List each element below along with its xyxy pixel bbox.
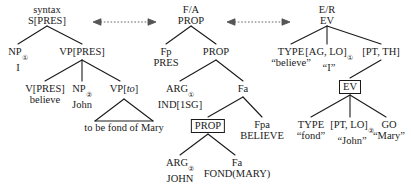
prop-boxed-label: PROP [191,119,225,133]
node-type2: TYPE “fond” [297,119,326,141]
node-fp: Fp PRES [153,46,178,68]
er-tier-label: E/R EV [319,4,335,26]
type2-word: “fond” [297,130,326,141]
edge-triangle-left [95,99,124,121]
edge-propboxed-to-fa2 [208,134,235,155]
syntax-root-label: S[PRES] [28,15,66,26]
np2-index: ② [86,91,92,99]
node-ev-boxed: EV [339,80,361,94]
node-vp-to: VP[to] [110,83,139,94]
edge-prop-to-fp [166,26,191,44]
fa-label: Fa [238,83,249,94]
node-fpa: Fpa BELIEVE [240,119,284,141]
node-ptth: [PT, TH] [362,46,400,57]
np2-word: John [72,99,92,110]
diagram-canvas: syntax S[PRES] NP① I VP[PRES] V[PRES] be… [0,0,411,195]
node-fa: Fa [238,83,249,94]
vp-to-label: VP[to] [110,83,139,94]
fa-tier-text: F/A [178,4,204,15]
node-go: GO “Mary” [373,119,405,141]
edge-evboxed-to-go [350,95,386,117]
aglo-label: [AG, LO]① [305,46,352,62]
type2-label: TYPE [297,119,326,130]
node-triangle-phrase: to be fond of Mary [84,122,163,133]
node-vp-pres: VP[PRES] [59,46,105,57]
edge-vppres-to-vpres [45,60,82,81]
fpa-label: Fpa [240,119,284,130]
np1-category: NP① [8,46,27,62]
vp-pres-label: VP[PRES] [59,46,105,57]
edge-ev-to-type1 [291,26,327,44]
edge-propboxed-to-arg2 [180,134,208,155]
edge-s-to-np1 [18,26,47,44]
fp-label: Fp [153,46,178,57]
edge-evboxed-to-type2 [311,95,350,117]
node-aglo: [AG, LO]① “I” [305,46,352,73]
arg1-index: ① [188,91,194,99]
er-tier-text: E/R [319,4,335,15]
go-word: “Mary” [373,130,405,141]
arg2-label: ARG② [166,157,194,173]
fpa-word: BELIEVE [240,130,284,141]
arg1-label: ARG① [158,83,202,99]
arg1-word: IND[1SG] [158,99,202,110]
node-arg1: ARG① IND[1SG] [158,83,202,110]
edge-fa-to-fpa [243,97,262,117]
arrow-syntax-fa [93,19,156,25]
edge-fa-to-propboxed [208,97,243,117]
aglo-word: “I” [305,62,352,73]
node-np1: NP① I [8,46,27,73]
edge-vppres-to-vpto [82,60,120,81]
node-arg2: ARG② JOHN [166,157,194,184]
edge-ev-to-ptth [327,26,381,44]
arg2-word: JOHN [166,173,194,184]
edge-s-to-vppres [47,26,82,44]
edge-triangle-right [124,99,153,121]
node-v-pres: V[PRES] believe [25,83,65,105]
arrow-fa-er [227,19,290,25]
fa2-label: Fa [204,157,271,168]
v-pres-label: V[PRES] [25,83,65,94]
edge-ptth-to-evboxed [350,60,381,78]
node-fa2: Fa FOND(MARY) [204,157,271,179]
syntax-tier-label: syntax S[PRES] [28,4,66,26]
node-prop2: PROP [203,46,229,57]
np1-index: ① [22,54,28,62]
edge-prop-to-prop2 [191,26,216,44]
fa2-word: FOND(MARY) [204,168,271,179]
prop2-label: PROP [203,46,229,57]
ptth-label: [PT, TH] [362,46,400,57]
node-prop-boxed: PROP [191,119,225,133]
fa-tier-label: F/A PROP [178,4,204,26]
triangle-phrase-text: to be fond of Mary [84,122,163,133]
node-np2: NP② John [72,83,92,110]
aglo-index: ① [347,54,353,62]
ptlo-label: [PT, LO]② [330,119,374,135]
np1-word: I [8,62,27,73]
node-ptlo: [PT, LO]② “John” [330,119,374,146]
syntax-tier-text: syntax [28,4,66,15]
ptlo-word: “John” [330,135,374,146]
arg2-index: ② [188,165,194,173]
fa-root-label: PROP [178,15,204,26]
ev-boxed-label: EV [339,80,361,94]
edge-prop2-to-fa [216,60,243,81]
go-label: GO [373,119,405,130]
fp-word: PRES [153,57,178,68]
er-root-label: EV [319,15,335,26]
v-pres-word: believe [25,94,65,105]
edge-prop2-to-arg1 [180,60,216,81]
np2-category: NP② [72,83,92,99]
